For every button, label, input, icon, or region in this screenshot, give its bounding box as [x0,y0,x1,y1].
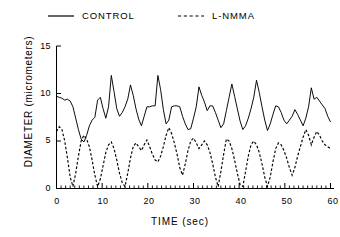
x-tick-label-20: 20 [137,197,161,206]
x-tick-label-50: 50 [275,197,299,206]
plot-area: 15 10 5 0 0 10 20 30 40 50 60 DIAMETER (… [0,0,340,237]
figure-chart-diameter-vs-time: CONTROL L-NMMA [0,0,340,237]
data-traces [57,75,331,186]
series-line-lnmma [57,127,331,187]
x-tick-label-40: 40 [229,197,253,206]
x-axis-label: TIME (sec) [110,216,250,227]
x-tick-label-0: 0 [45,197,69,206]
x-tick-label-10: 10 [91,197,115,206]
x-tick-label-30: 30 [183,197,207,206]
x-tick-label-60: 60 [321,197,340,206]
axis-spines [57,46,335,189]
y-axis-ticks [57,46,62,189]
series-line-control [57,75,331,142]
y-axis-label: DIAMETER (micrometers) [23,22,34,182]
y-tick-label-0: 0 [29,184,51,193]
